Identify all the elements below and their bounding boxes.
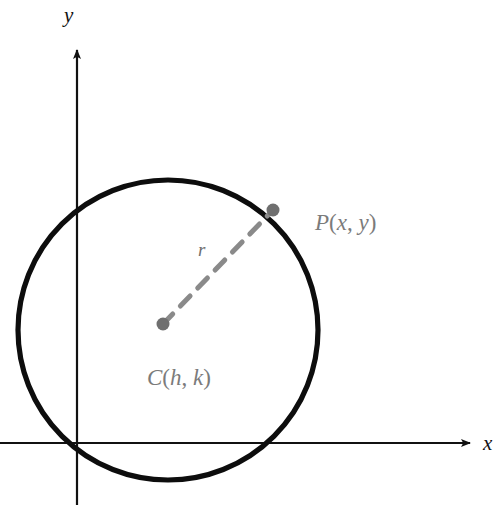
- point-c-comma: ,: [182, 365, 194, 390]
- point-p-x: x: [337, 210, 347, 235]
- point-c-letter: C: [147, 365, 162, 390]
- center-point-label: C(h, k): [124, 343, 211, 412]
- point-c-h: h: [170, 365, 182, 390]
- circle-outline: [18, 180, 318, 480]
- x-axis-label: x: [483, 433, 492, 454]
- circle-point-label: P(x, y): [292, 188, 376, 257]
- point-p-y: y: [358, 210, 368, 235]
- radius-label: r: [198, 240, 205, 259]
- point-p-close-paren: ): [369, 210, 377, 235]
- point-c-open-paren: (: [162, 365, 170, 390]
- point-p-letter: P: [315, 210, 329, 235]
- point-p-open-paren: (: [329, 210, 337, 235]
- radius-segment: [163, 210, 273, 324]
- point-c-k: k: [193, 365, 203, 390]
- y-axis-label: y: [64, 5, 73, 26]
- circle-diagram: y x P(x, y) C(h, k) r: [0, 0, 501, 507]
- diagram-canvas: [0, 0, 501, 507]
- center-point-dot: [157, 318, 170, 331]
- circle-point-dot: [267, 204, 280, 217]
- point-c-close-paren: ): [203, 365, 211, 390]
- point-p-comma: ,: [347, 210, 359, 235]
